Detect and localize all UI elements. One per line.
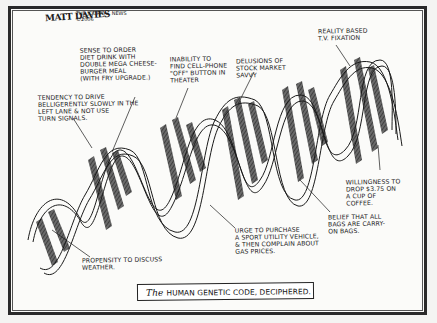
caption-box: TheHUMAN GENETIC CODE, DECIPHERED. <box>137 282 314 301</box>
annotation-reality-tv: REALITY BASED T.V. FIXATION <box>318 27 368 42</box>
annotation-carry-on: BELIEF THAT ALL BAGS ARE CARRY- ON BAGS. <box>328 213 385 235</box>
caption: TheHUMAN GENETIC CODE, DECIPHERED. <box>146 286 311 298</box>
annotation-weather: PROPENSITY TO DISCUSS WEATHER. <box>82 255 163 270</box>
caption-text: HUMAN GENETIC CODE, DECIPHERED. <box>166 287 311 298</box>
publication-credit: THE JOURNAL NEWS ©2006 <box>76 10 127 22</box>
base-pair-stripes <box>36 57 388 266</box>
annotation-suv: URGE TO PURCHASE A SPORT UTILITY VEHICLE… <box>235 225 319 254</box>
annotation-coffee: WILLINGNESS TO DROP $3.75 ON A CUP OF CO… <box>346 178 401 207</box>
caption-article: The <box>146 287 164 297</box>
annotation-cell-phone: INABILITY TO FIND CELL-PHONE "OFF" BUTTO… <box>170 55 228 84</box>
annotation-stock-market: DELUSIONS OF STOCK MARKET SAVVY <box>236 57 286 79</box>
annotation-drive-slowly: TENDENCY TO DRIVE BELLIGERENTLY SLOWLY I… <box>38 92 139 122</box>
dna-helix-illustration <box>0 0 437 323</box>
annotation-diet-drink: SENSE TO ORDER DIET DRINK WITH DOUBLE ME… <box>80 45 157 81</box>
